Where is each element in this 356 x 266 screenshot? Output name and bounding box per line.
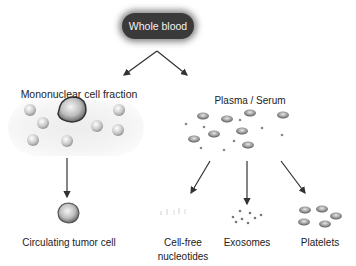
arrow-root-to-plasma xyxy=(157,51,187,75)
exosome xyxy=(281,134,284,137)
platelet xyxy=(208,131,220,138)
whole-blood-node: Whole blood xyxy=(122,13,194,39)
platelet xyxy=(197,113,209,120)
platelet xyxy=(236,128,248,135)
exosome xyxy=(261,127,264,130)
lymphocyte xyxy=(112,124,124,136)
plasma-contents xyxy=(185,110,289,152)
lymphocyte xyxy=(27,134,39,146)
exosome xyxy=(223,149,226,152)
exosome xyxy=(203,126,206,129)
diagram-canvas xyxy=(0,0,356,266)
arrow-root-to-mononuclear xyxy=(124,51,157,75)
platelet xyxy=(277,112,289,119)
lymphocyte xyxy=(37,117,49,129)
lymphocyte xyxy=(61,135,73,147)
ctc-label: Circulating tumor cell xyxy=(14,236,124,249)
lymphocyte xyxy=(91,120,103,132)
cell-free-nucleotides-graphic xyxy=(160,208,186,215)
platelets-label: Platelets xyxy=(292,236,348,249)
platelet xyxy=(242,142,254,149)
exosome xyxy=(185,123,188,126)
exosome xyxy=(239,119,242,122)
platelet xyxy=(188,136,200,143)
circulating-tumor-cell xyxy=(58,203,79,223)
arrow-plasma-to-cfn xyxy=(191,161,210,193)
mononuclear-cells xyxy=(24,97,125,147)
platelet xyxy=(221,116,233,123)
platelet xyxy=(244,110,256,117)
cfn-label-line1: Cell-free xyxy=(148,236,218,249)
mononuclear-fraction-label: Mononuclear cell fraction xyxy=(14,88,144,101)
exosome xyxy=(200,147,203,150)
exosomes-label: Exosomes xyxy=(215,236,279,249)
platelets-graphic xyxy=(298,206,342,228)
lymphocyte xyxy=(113,104,125,116)
exosome xyxy=(233,140,236,143)
cfn-label-line2: nucleotides xyxy=(148,250,218,263)
plasma-serum-label: Plasma / Serum xyxy=(205,94,295,107)
exosomes-graphic xyxy=(232,210,263,225)
arrow-plasma-to-platelets xyxy=(281,161,305,193)
lymphocyte xyxy=(24,104,36,116)
